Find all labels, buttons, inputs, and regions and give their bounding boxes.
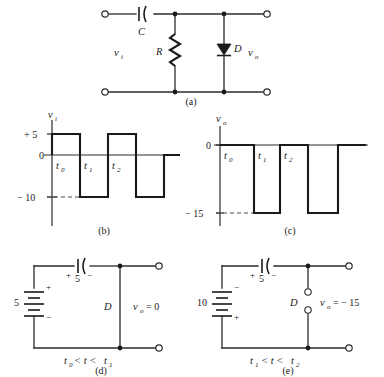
cap-value-e: 5 [259,273,264,284]
tick-label-plus5-b: + 5 [24,129,37,140]
time-cond-first-d: t [64,355,68,366]
waveform-output [220,145,366,213]
time-cond-second-sub-e: 2 [296,361,300,369]
time-cond-first-e: t [250,355,254,366]
cap-minus-e: − [271,270,276,280]
diode-label: D [233,43,242,54]
junction-dot-bottom-left [173,90,178,95]
capacitor-d-plate-right [83,258,85,274]
source-plus-d: + [46,282,51,292]
time-cond-op-e: < t < [261,355,283,366]
output-voltage-subscript: o [255,53,259,61]
waveform-input [52,134,180,197]
junction-dot-bottom-right [222,90,227,95]
time-mark-t1-c: t [258,150,262,161]
time-mark-t0-b: t [56,160,60,171]
output-sub-d: o [140,307,144,315]
time-cond-op-d: < t < [74,355,96,366]
diode-open-terminal-lower [305,307,311,313]
output-sub-e: o [327,303,331,311]
junction-dot-e-top [306,264,311,269]
cap-minus-d: − [87,270,92,280]
time-mark-t2-sub-b: 2 [117,166,121,174]
output-equals-e: = − 15 [333,297,359,308]
panel-b-chart: + 5 0 − 10 v i t 0 t 1 t 2 (b) [14,108,189,236]
output-label-e: v [320,297,325,308]
junction-dot-e-bottom [306,346,311,351]
diode-triangle [217,44,231,55]
tick-label-zero-c: 0 [206,140,211,151]
diode-open-terminal-upper [305,289,311,295]
time-cond-second-sub-d: 1 [109,361,113,369]
source-value-d: 5 [14,297,19,308]
junction-dot-top-left [173,12,178,17]
time-mark-t2-sub-c: 2 [289,156,293,164]
time-mark-t2-b: t [112,160,116,171]
time-cond-first-sub-e: 1 [255,361,259,369]
time-mark-t0-sub-b: 0 [61,166,65,174]
caption-d: (d) [95,365,107,377]
terminal-input-bottom [102,89,108,95]
y-axis-sub-c: o [223,119,227,127]
input-voltage-label: v [114,47,119,58]
time-mark-t2-c: t [284,150,288,161]
time-mark-t1-sub-c: 1 [263,156,267,164]
terminal-e-output-bottom [346,345,352,351]
capacitor-label: C [138,26,146,37]
caption-a: (a) [185,96,196,108]
time-cond-first-sub-d: 0 [69,361,73,369]
resistor-zigzag [170,34,180,66]
terminal-e-output-top [346,263,352,269]
time-mark-t0-sub-c: 0 [229,156,233,164]
tick-label-minus15-c: − 15 [185,208,203,219]
output-voltage-label: v [248,47,253,58]
input-voltage-subscript: i [121,53,123,61]
junction-dot-d-bottom [118,346,123,351]
junction-dot-top-right [222,12,227,17]
resistor-label: R [155,46,163,57]
diode-label-e: D [289,297,298,308]
terminal-d-output-top [156,263,162,269]
caption-e: (e) [282,365,293,377]
panel-c-chart: 0 − 15 v o t 0 t 1 t 2 (c) [190,108,380,236]
cap-plus-e: + [250,270,255,280]
source-minus-e: − [234,282,239,292]
tick-label-minus10-b: − 10 [17,192,35,203]
output-label-d: v [133,301,138,312]
caption-b: (b) [98,225,110,237]
y-axis-sub-b: i [55,115,57,123]
tick-label-zero-b: 0 [39,150,44,161]
junction-dot-d-top [118,264,123,269]
source-minus-d: − [46,312,51,322]
capacitor-plate-right [144,6,146,22]
capacitor-e-plate-right [267,258,269,274]
source-plus-e: + [234,312,239,322]
time-mark-t1-sub-b: 1 [89,166,93,174]
panel-d-circuit: 5 + − + 5 − D v o = 0 t 0 < t < t 1 (d) [16,244,192,374]
y-axis-label-b: v [48,109,53,120]
panel-e-circuit: 10 − + + 5 − D v o = − 15 t 1 < t < t 2 … [200,244,380,374]
time-mark-t1-b: t [84,160,88,171]
figure-root: C R D v i v o (a) + 5 0 − 10 v i t 0 t 1… [0,0,384,377]
terminal-d-output-bottom [156,345,162,351]
source-value-e: 10 [197,297,207,308]
terminal-output-top [264,11,270,17]
diode-label-d: D [103,301,112,312]
terminal-output-bottom [264,89,270,95]
terminal-input-top [102,11,108,17]
cap-value-d: 5 [75,273,80,284]
y-axis-label-c: v [216,113,221,124]
cap-plus-d: + [66,270,71,280]
caption-c: (c) [284,225,295,237]
time-mark-t0-c: t [224,150,228,161]
panel-a-circuit: C R D v i v o (a) [96,4,286,106]
output-equals-d: = 0 [146,301,159,312]
